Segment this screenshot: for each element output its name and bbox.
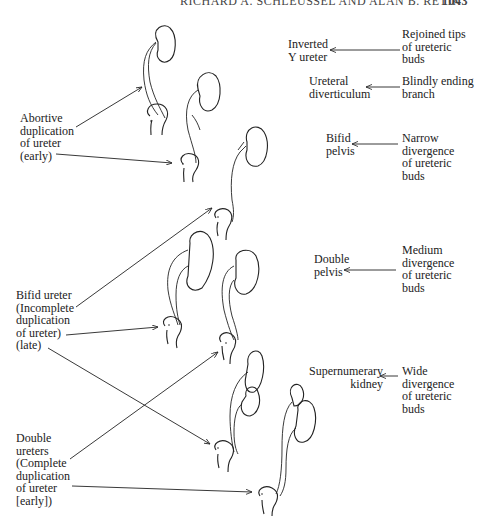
kidney-figure-5 xyxy=(220,250,259,364)
result-label-2: Ureteral diverticulum xyxy=(309,75,370,100)
kidney-figure-3 xyxy=(215,127,267,240)
left-arrows xyxy=(48,87,252,492)
label-bifid-ureter: Bifid ureter (Incomplete duplication of … xyxy=(16,289,74,352)
label-abortive-duplication: Abortive duplication of ureter (early) xyxy=(20,112,74,162)
arrow-abortive-to-fig1 xyxy=(76,87,142,127)
kidney-figure-1 xyxy=(144,26,176,135)
result-label-4: Double pelvis xyxy=(314,253,349,278)
cause-label-2: Blindly ending branch xyxy=(402,75,474,100)
kidney-figure-2 xyxy=(181,73,220,182)
result-label-1: Inverted Y ureter xyxy=(288,38,328,63)
arrow-bifid-to-fig6 xyxy=(48,348,210,444)
cause-label-3: Narrow divergence of ureteric buds xyxy=(402,132,454,182)
label-double-ureters: Double ureters (Complete duplication of … xyxy=(16,432,70,507)
result-label-3: Bifid pelvis xyxy=(326,132,355,157)
arrow-double-to-fig7 xyxy=(72,486,252,492)
result-label-5: Supernumerary kidney xyxy=(309,365,383,390)
cause-label-1: Rejoined tips of ureteric buds xyxy=(402,28,466,66)
kidney-figure-7 xyxy=(259,384,316,516)
arrow-bifid-to-fig4 xyxy=(66,327,158,335)
arrow-double-to-fig5 xyxy=(70,352,218,459)
kidney-figure-4 xyxy=(163,231,213,348)
cause-label-4: Medium divergence of ureteric buds xyxy=(402,244,454,294)
cause-label-5: Wide divergence of ureteric buds xyxy=(402,365,454,415)
arrow-bifid-to-fig3 xyxy=(76,208,212,307)
kidney-figure-6 xyxy=(215,351,264,472)
